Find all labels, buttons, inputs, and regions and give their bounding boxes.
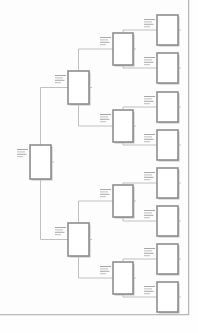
node-label-text xyxy=(100,37,111,38)
node-label-text xyxy=(144,210,155,211)
node-label-text xyxy=(144,291,154,292)
node-label-text xyxy=(100,273,106,274)
node-label-text xyxy=(144,177,154,178)
node-label-text xyxy=(100,119,110,120)
node-label-text xyxy=(144,24,154,25)
node-label-text xyxy=(55,82,61,83)
node-label-text xyxy=(144,215,154,216)
node-label-text xyxy=(100,191,108,192)
node-label-text xyxy=(144,172,155,173)
tree-diagram xyxy=(0,0,198,333)
tree-node-l1[interactable] xyxy=(157,15,178,45)
node-label-text xyxy=(144,98,152,99)
node-label-text xyxy=(55,234,61,235)
node-label-text xyxy=(144,255,150,256)
tree-node-n1a[interactable] xyxy=(113,33,133,65)
node-label-text xyxy=(144,288,152,289)
node-label-text xyxy=(144,101,154,102)
node-label-text xyxy=(100,42,110,43)
connector-n0-n2 xyxy=(41,179,69,240)
node-label-text xyxy=(55,77,63,78)
node-label-text xyxy=(55,75,66,76)
node-label-text xyxy=(144,286,155,287)
node-label-text xyxy=(100,196,106,197)
node-label-text xyxy=(55,229,63,230)
node-label-text xyxy=(55,232,65,233)
node-label-text xyxy=(144,21,152,22)
node-label-text xyxy=(144,212,152,213)
node-label-text xyxy=(144,19,155,20)
node-label-text xyxy=(144,250,152,251)
tree-node-l3[interactable] xyxy=(157,92,178,122)
node-label-text xyxy=(144,57,155,58)
tree-node-l2[interactable] xyxy=(157,53,178,83)
tree-node-n2b[interactable] xyxy=(113,262,133,294)
node-label-text xyxy=(144,103,150,104)
node-label-text xyxy=(17,151,25,152)
node-label-text xyxy=(100,121,106,122)
node-label-text xyxy=(144,134,155,135)
node-label-text xyxy=(144,217,150,218)
node-label-text xyxy=(17,154,27,155)
node-label-text xyxy=(100,266,111,267)
node-label-text xyxy=(144,64,150,65)
node-label-text xyxy=(144,179,150,180)
tree-node-n1[interactable] xyxy=(68,71,89,104)
node-label-text xyxy=(100,114,111,115)
tree-node-l4[interactable] xyxy=(157,130,178,160)
node-label-text xyxy=(144,141,150,142)
tree-node-l6[interactable] xyxy=(157,206,178,236)
node-label-text xyxy=(100,39,108,40)
node-label-text xyxy=(55,80,65,81)
tree-node-n2a[interactable] xyxy=(113,185,133,217)
node-label-text xyxy=(144,96,155,97)
node-label-text xyxy=(144,62,154,63)
tree-node-l8[interactable] xyxy=(157,282,178,312)
node-label-text xyxy=(144,59,152,60)
connector-n2-n2a xyxy=(79,201,114,223)
node-label-text xyxy=(144,293,150,294)
tree-node-n2[interactable] xyxy=(68,223,89,256)
tree-node-l5[interactable] xyxy=(157,168,178,198)
tree-node-n1b[interactable] xyxy=(113,110,133,142)
node-label-text xyxy=(100,268,108,269)
node-label-text xyxy=(144,139,154,140)
connector-n1-n1a xyxy=(79,49,114,71)
node-label-text xyxy=(144,174,152,175)
node-label-text xyxy=(144,253,154,254)
node-label-text xyxy=(100,271,110,272)
connector-n0-n1 xyxy=(41,88,69,146)
node-label-text xyxy=(144,248,155,249)
node-label-text xyxy=(55,227,66,228)
node-label-text xyxy=(144,136,152,137)
node-label-text xyxy=(100,116,108,117)
node-label-text xyxy=(17,156,23,157)
tree-node-l7[interactable] xyxy=(157,244,178,274)
node-label-text xyxy=(100,194,110,195)
node-label-text xyxy=(17,149,28,150)
page-thumbnail xyxy=(0,0,198,333)
node-label-text xyxy=(100,189,111,190)
node-label-text xyxy=(144,26,150,27)
node-label-text xyxy=(100,44,106,45)
tree-node-n0[interactable] xyxy=(30,145,51,179)
